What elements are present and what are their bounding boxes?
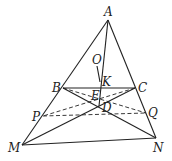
- segment-AM: [22, 20, 108, 145]
- label-D: D: [101, 101, 112, 115]
- label-O: O: [92, 53, 102, 67]
- segment-MN: [22, 138, 156, 145]
- label-K: K: [101, 75, 112, 89]
- label-A: A: [103, 5, 113, 19]
- label-E: E: [90, 89, 100, 103]
- label-P: P: [31, 110, 41, 124]
- segment-PQ: [43, 113, 146, 116]
- segment-OK: [97, 66, 100, 82]
- label-C: C: [138, 81, 147, 95]
- label-M: M: [7, 141, 21, 155]
- label-B: B: [51, 81, 61, 95]
- segment-AN: [108, 20, 156, 138]
- label-Q: Q: [148, 106, 158, 120]
- label-N: N: [152, 141, 164, 155]
- geometry-diagram: A O K B C E D P Q M N: [0, 0, 172, 161]
